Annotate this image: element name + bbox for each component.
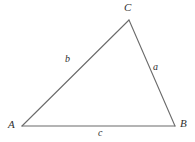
side-label-b: b [65,54,70,64]
side-label-a: a [153,62,158,72]
triangle-diagram: A B C a b c [0,0,195,142]
side-b-line [22,20,129,126]
side-a-line [129,20,175,126]
vertex-label-c: C [124,2,131,13]
vertex-label-b: B [180,118,187,129]
side-label-c: c [98,128,102,138]
vertex-label-a: A [8,119,15,130]
triangle-shape [0,0,195,142]
